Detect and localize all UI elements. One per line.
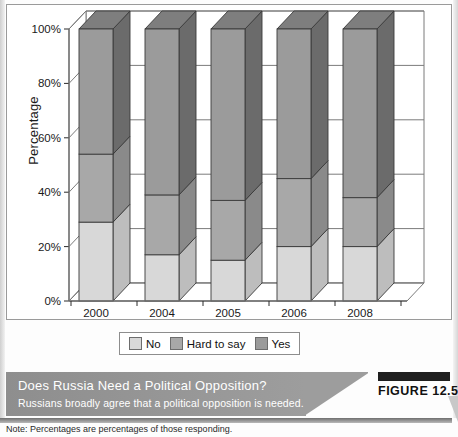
legend-item-yes[interactable]: Yes xyxy=(255,337,291,350)
caption-text-group: Does Russia Need a Political Opposition?… xyxy=(18,378,304,409)
legend-swatch-icon xyxy=(129,337,142,350)
figure-note: Note: Percentages are percentages of tho… xyxy=(6,424,232,434)
figure-tag-bar xyxy=(378,372,450,381)
legend-label: Hard to say xyxy=(187,338,246,350)
page-edge-left xyxy=(0,0,5,418)
legend-item-hard-to-say[interactable]: Hard to say xyxy=(170,337,246,350)
caption-title: Does Russia Need a Political Opposition? xyxy=(18,378,304,393)
legend-swatch-icon xyxy=(255,337,268,350)
x-axis-tick-2005: 2005 xyxy=(198,307,258,319)
x-axis-tick-2008: 2008 xyxy=(330,307,390,319)
chart-plot-area xyxy=(7,5,453,321)
legend-label: Yes xyxy=(272,338,291,350)
chart-legend: NoHard to sayYes xyxy=(119,332,300,355)
chart-container: Percentage 0%20%40%60%80%100% 2000200420… xyxy=(6,4,452,320)
legend-label: No xyxy=(146,338,161,350)
caption-subtitle: Russians broadly agree that a political … xyxy=(18,397,304,409)
x-axis-tick-2004: 2004 xyxy=(132,307,192,319)
x-axis-tick-2006: 2006 xyxy=(264,307,324,319)
legend-item-no[interactable]: No xyxy=(129,337,161,350)
x-axis-tick-2000: 2000 xyxy=(66,307,126,319)
figure-caption-band: Does Russia Need a Political Opposition?… xyxy=(6,372,368,416)
legend-swatch-icon xyxy=(170,337,183,350)
figure-tag-label: FIGURE 12.5 xyxy=(378,384,452,398)
caption-band-wedge xyxy=(304,372,368,416)
page-edge-right xyxy=(453,0,458,418)
figure-number-tag: FIGURE 12.5 xyxy=(378,372,452,398)
footnote-rule xyxy=(0,418,452,423)
figure-plate: Percentage 0%20%40%60%80%100% 2000200420… xyxy=(0,0,458,437)
